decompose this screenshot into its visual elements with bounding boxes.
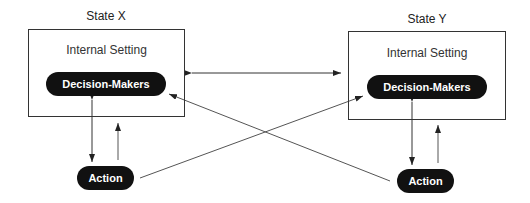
- state-x-label: State X: [66, 9, 146, 23]
- state-y-action: Action: [397, 169, 454, 193]
- state-y-decision-makers: Decision-Makers: [367, 75, 487, 99]
- state-y-internal-setting: Internal Setting: [348, 46, 506, 60]
- state-x-decision-makers: Decision-Makers: [46, 72, 166, 96]
- state-y-label: State Y: [387, 12, 467, 26]
- state-x-internal-setting: Internal Setting: [28, 43, 185, 57]
- state-x-action: Action: [77, 166, 134, 190]
